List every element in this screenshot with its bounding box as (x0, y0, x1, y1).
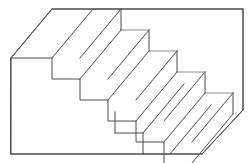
face-riser-1 (52, 58, 80, 79)
face-riser-3 (108, 100, 136, 121)
staircase-drawing (0, 0, 252, 163)
staircase-illusion-figure: Schroeder Staircase (0, 0, 252, 163)
face-riser-2 (80, 79, 108, 100)
